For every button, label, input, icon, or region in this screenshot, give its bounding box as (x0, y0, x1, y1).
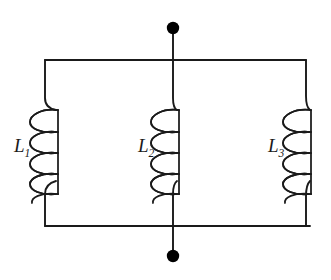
inductor-l3-label: L3 (267, 135, 285, 159)
middle-branch-lower-wire (173, 181, 177, 256)
right-branch-upper-wire (306, 60, 310, 110)
inductor-l1-label-subscript: 1 (25, 147, 31, 159)
inductor-l2-turns-fg (151, 110, 179, 195)
inductor-l2-label-subscript: 2 (149, 147, 155, 159)
middle-branch-upper-wire (173, 28, 177, 110)
inductor-l2-label-letter: L (137, 135, 149, 156)
circuit-schematic-canvas: L1 L2 L3 (0, 0, 331, 280)
inductor-l1-label-letter: L (13, 135, 25, 156)
inductor-l3-label-letter: L (267, 135, 279, 156)
right-branch-lower-wire (306, 181, 310, 226)
top-terminal-dot (167, 22, 179, 34)
inductor-l3-label-subscript: 3 (278, 147, 285, 159)
inductor-l1-label: L1 (13, 135, 30, 159)
circuit-diagram-figure: L1 L2 L3 (0, 0, 331, 280)
bottom-terminal-dot (167, 250, 179, 262)
left-branch-upper-wire (45, 60, 56, 110)
inductor-l3-turns-fg (283, 110, 311, 195)
